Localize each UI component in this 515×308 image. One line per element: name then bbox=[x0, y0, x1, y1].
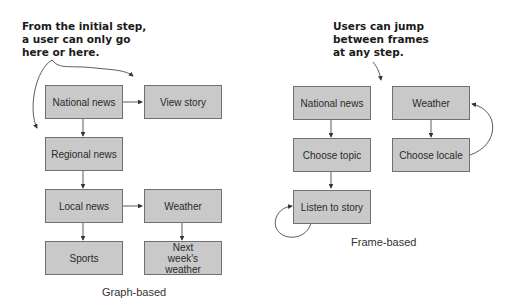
graph-caption: Graph-based bbox=[102, 286, 166, 298]
node-view-story: View story bbox=[144, 85, 222, 119]
node-sports: Sports bbox=[45, 241, 123, 275]
node-label: Weather bbox=[164, 201, 202, 212]
node-national-news: National news bbox=[45, 85, 123, 119]
annotation-arrow-frame bbox=[373, 62, 381, 80]
node-weather: Weather bbox=[144, 189, 222, 223]
node-label: National news bbox=[301, 98, 364, 109]
node-label: Choose topic bbox=[303, 150, 361, 161]
node-frame-national-news: National news bbox=[293, 86, 371, 120]
node-listen-to-story: Listen to story bbox=[293, 190, 371, 224]
node-label: Choose locale bbox=[399, 150, 462, 161]
annotation-line: at any step. bbox=[333, 46, 429, 59]
node-label: View story bbox=[160, 97, 206, 108]
node-next-weeks-weather: Next week's weather bbox=[144, 241, 222, 275]
annotation-line: From the initial step, bbox=[22, 20, 146, 33]
node-label: Sports bbox=[70, 253, 99, 264]
annotation-line: Users can jump bbox=[333, 20, 429, 33]
graph-annotation: From the initial step, a user can only g… bbox=[22, 20, 146, 59]
node-label: Listen to story bbox=[301, 202, 363, 213]
node-label: Local news bbox=[59, 201, 109, 212]
node-frame-weather: Weather bbox=[392, 86, 470, 120]
edge-chooselocale-to-weather bbox=[470, 104, 493, 155]
frame-annotation: Users can jump between frames at any ste… bbox=[333, 20, 429, 59]
annotation-line: a user can only go bbox=[22, 33, 146, 46]
frame-caption: Frame-based bbox=[351, 236, 416, 248]
annotation-line: here or here. bbox=[22, 46, 146, 59]
annotation-arrow-right bbox=[52, 60, 133, 76]
node-local-news: Local news bbox=[45, 189, 123, 223]
node-choose-topic: Choose topic bbox=[293, 138, 371, 172]
node-regional-news: Regional news bbox=[45, 137, 123, 171]
node-label: National news bbox=[53, 97, 116, 108]
node-choose-locale: Choose locale bbox=[392, 138, 470, 172]
node-label: Next week's weather bbox=[159, 242, 207, 275]
annotation-line: between frames bbox=[333, 33, 429, 46]
node-label: Regional news bbox=[51, 149, 117, 160]
node-label: Weather bbox=[412, 98, 450, 109]
